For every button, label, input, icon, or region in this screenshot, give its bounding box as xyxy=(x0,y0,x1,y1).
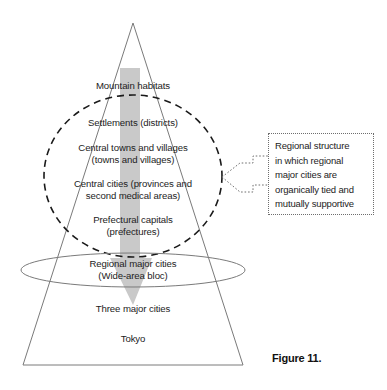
level-label-line: Three major cities xyxy=(0,303,266,315)
level-label-line: Mountain habitats xyxy=(0,80,266,92)
level-label-line: Tokyo xyxy=(0,333,266,345)
hierarchy-level-prefectural-capitals: Prefectural capitals (prefectures) xyxy=(0,214,266,239)
level-label-line: (prefectures) xyxy=(0,226,266,238)
callout-text-line: Regional structure xyxy=(275,139,368,154)
callout-text-line: in which regional xyxy=(275,154,368,169)
hierarchy-level-central-towns-villages: Central towns and villages (towns and vi… xyxy=(0,142,266,167)
level-label-line: Settlements (districts) xyxy=(0,117,266,129)
callout-text-line: major cities are xyxy=(275,168,368,183)
level-label-line: Prefectural capitals xyxy=(0,214,266,226)
level-label-line: (Wide-area bloc) xyxy=(0,270,266,282)
callout-text-line: organically tied and xyxy=(275,183,368,198)
figure-caption: Figure 11. xyxy=(272,352,321,364)
hierarchy-level-mountain-habitats: Mountain habitats xyxy=(0,80,266,92)
level-label-line: Central cities (provinces and xyxy=(0,178,266,190)
regional-structure-callout: Regional structure in which regional maj… xyxy=(268,133,374,215)
hierarchy-level-settlements: Settlements (districts) xyxy=(0,117,266,129)
level-label-line: Regional major cities xyxy=(0,258,266,270)
figure-11-diagram: Mountain habitats Settlements (districts… xyxy=(0,0,387,390)
hierarchy-level-tokyo: Tokyo xyxy=(0,333,266,345)
level-label-line: second medical areas) xyxy=(0,190,266,202)
level-label-line: (towns and villages) xyxy=(0,154,266,166)
hierarchy-level-regional-major-cities: Regional major cities (Wide-area bloc) xyxy=(0,258,266,283)
hierarchy-level-central-cities: Central cities (provinces and second med… xyxy=(0,178,266,203)
level-label-line: Central towns and villages xyxy=(0,142,266,154)
hierarchy-level-three-major-cities: Three major cities xyxy=(0,303,266,315)
callout-text-line: mutually supportive xyxy=(275,197,368,212)
